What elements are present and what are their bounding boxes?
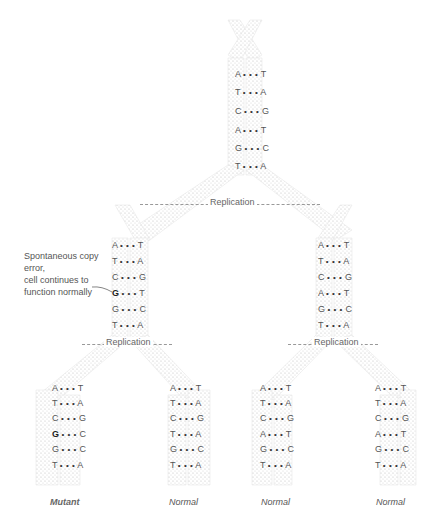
base-pair: G • • • C [318,304,352,315]
base-pair: T • • • A [318,320,349,331]
base-pair: T • • • A [112,256,143,267]
base-pair: C • • • G [260,413,294,424]
base-pair: T • • • A [52,460,83,471]
base-pair: T • • • A [260,460,291,471]
label-normal-1: Normal [169,497,198,507]
base-pair: A • • • T [318,240,349,251]
base-pair: T • • • A [318,256,349,267]
base-pair: A • • • T [112,240,143,251]
base-pair: T • • • A [112,320,143,331]
base-pair: A • • • T [375,383,406,394]
base-pair: A • • • T [260,383,291,394]
base-pair: A • • • T [318,288,349,299]
base-pair: A • • • T [170,383,201,394]
annotation-line: function normally [24,286,99,298]
annotation-line: Spontaneous copy [24,250,99,262]
base-pair-error: G • • • T [112,288,145,299]
base-pair: G • • • C [235,143,269,154]
replication-label-2a: Replication [104,337,153,347]
base-pair: G • • • C [260,444,294,455]
annotation-line: cell continues to [24,274,99,286]
base-pair: C • • • G [52,413,86,424]
base-pair: C • • • G [170,413,204,424]
base-pair: C • • • G [318,272,352,283]
base-pair: T • • • A [260,398,291,409]
base-pair: A • • • T [52,383,83,394]
label-normal-3: Normal [376,497,405,507]
annotation-pointer [92,286,114,294]
label-mutant: Mutant [50,497,80,507]
base-pair: G • • • C [52,444,86,455]
base-pair: T • • • A [170,460,201,471]
base-pair: C • • • G [112,272,146,283]
base-pair: G • • • C [112,304,146,315]
base-pair: G • • • C [170,444,204,455]
label-normal-2: Normal [261,497,290,507]
base-pair: T • • • A [375,460,406,471]
base-pair: T • • • A [235,87,266,98]
base-pair: G • • • C [375,444,409,455]
base-pair: A • • • T [235,125,266,136]
copy-error-annotation: Spontaneous copy error, cell continues t… [24,250,99,298]
base-pair: C • • • G [375,413,409,424]
replication-label-1: Replication [208,197,257,207]
base-pair: T • • • A [375,398,406,409]
base-pair-mutant: G • • • C [52,429,86,440]
annotation-line: error, [24,262,99,274]
base-pair: T • • • A [170,398,201,409]
base-pair: T • • • A [52,398,83,409]
base-pair: T • • • A [235,161,266,172]
base-pair: C • • • G [235,106,269,117]
replication-label-2b: Replication [312,337,361,347]
base-pair: A • • • T [235,69,266,80]
base-pair: A • • • T [375,429,406,440]
base-pair: A • • • T [260,429,291,440]
base-pair: T • • • A [170,429,201,440]
